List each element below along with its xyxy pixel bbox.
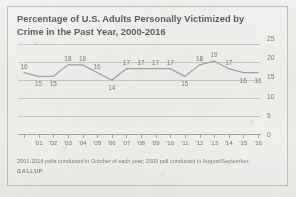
y-axis-tick-label: 25 <box>267 35 274 42</box>
data-point-label: 16 <box>20 63 27 70</box>
data-point-label: 16 <box>254 77 261 84</box>
data-point-label: 17 <box>225 59 232 66</box>
x-axis-tick <box>83 134 84 138</box>
x-axis-tick-label: '13 <box>210 139 218 146</box>
x-axis-tick <box>258 134 259 138</box>
y-axis-tick-label: 15 <box>267 73 274 80</box>
y-axis-tick-label: 5 <box>267 112 271 119</box>
x-axis-tick <box>170 134 171 138</box>
y-axis-tick-label: 10 <box>267 93 274 100</box>
x-axis-tick-label: '07 <box>122 139 130 146</box>
source-logo: GALLUP <box>17 168 43 174</box>
data-point-label: 15 <box>35 80 42 87</box>
data-point-label: 18 <box>196 55 203 62</box>
x-axis-tick-label: '14 <box>225 139 233 146</box>
data-point-label: 17 <box>152 59 159 66</box>
x-axis-tick-label: '11 <box>181 139 189 146</box>
data-point-label: 19 <box>211 51 218 58</box>
data-point-label: 17 <box>137 59 144 66</box>
x-axis-tick-label: '16 <box>254 139 262 146</box>
data-point-label: 16 <box>240 77 247 84</box>
x-axis-tick-label: '12 <box>195 139 203 146</box>
x-axis-tick-label: '08 <box>137 139 145 146</box>
x-axis-tick <box>200 134 201 138</box>
x-axis-tick <box>39 134 40 138</box>
y-axis-tick-label: 0 <box>267 131 271 138</box>
x-axis-tick-label: '15 <box>239 139 247 146</box>
data-point-label: 17 <box>167 59 174 66</box>
chart-title: Percentage of U.S. Adults Personally Vic… <box>17 13 265 40</box>
x-axis-tick-label: '06 <box>108 139 116 146</box>
footnote: 2001-2016 polls conducted in October of … <box>17 157 275 165</box>
x-axis-tick-label: '03 <box>64 139 72 146</box>
x-axis-tick <box>68 134 69 138</box>
y-axis-labels: 0510152025 <box>264 38 288 140</box>
data-point-label: 18 <box>79 55 86 62</box>
x-axis-tick-label: '09 <box>152 139 160 146</box>
screenshot-canvas: Percentage of U.S. Adults Personally Vic… <box>0 0 296 197</box>
x-axis-tick-label: '02 <box>49 139 57 146</box>
data-point-label: 16 <box>94 63 101 70</box>
x-axis-tick <box>141 134 142 138</box>
x-axis-tick <box>214 134 215 138</box>
data-point-label: 18 <box>64 55 71 62</box>
x-axis-tick <box>126 134 127 138</box>
x-axis-tick-label: '05 <box>93 139 101 146</box>
x-axis-tick <box>229 134 230 138</box>
data-point-label: 15 <box>181 80 188 87</box>
x-axis-tick <box>97 134 98 138</box>
data-point-label: 15 <box>50 80 57 87</box>
x-axis-tick <box>185 134 186 138</box>
data-point-label: 14 <box>108 84 115 91</box>
x-axis-tick <box>243 134 244 138</box>
x-axis-tick-label: '10 <box>166 139 174 146</box>
x-axis-tick <box>156 134 157 138</box>
x-axis-tick-label: '04 <box>78 139 86 146</box>
x-axis-tick <box>53 134 54 138</box>
x-axis-tick-label: '01 <box>35 139 43 146</box>
data-point-label: 17 <box>123 59 130 66</box>
x-axis-tick <box>24 134 25 138</box>
y-axis-tick-label: 20 <box>267 54 274 61</box>
x-axis-tick <box>112 134 113 138</box>
